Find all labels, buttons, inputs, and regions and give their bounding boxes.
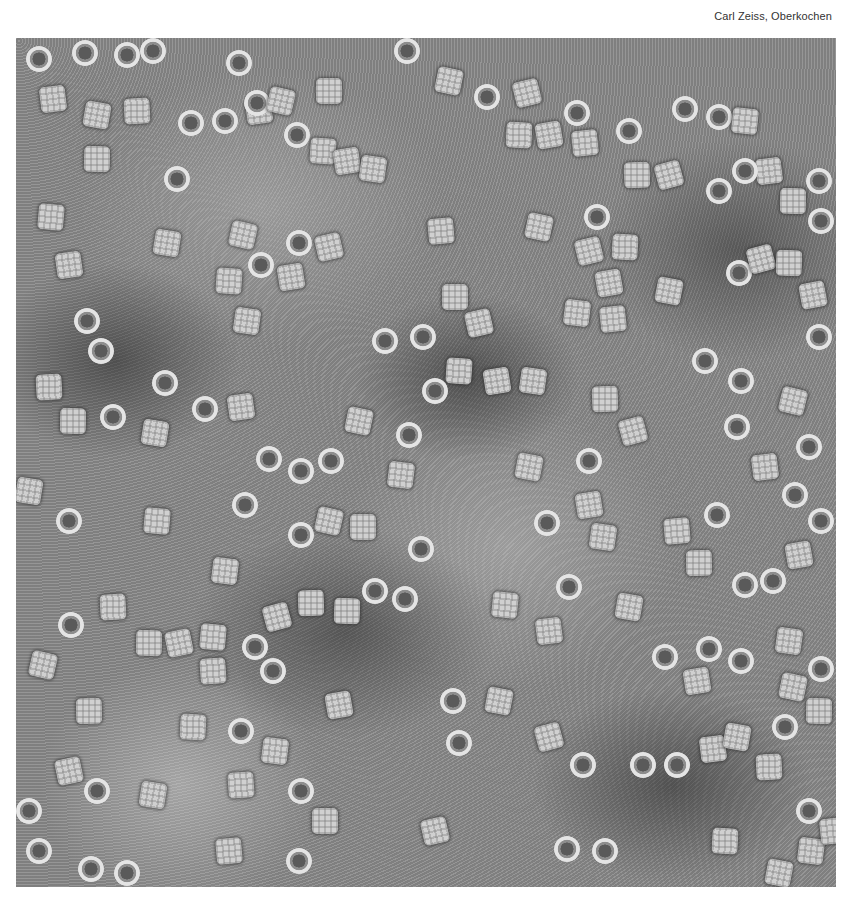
ring-particle (396, 422, 422, 448)
square-particle (563, 299, 592, 328)
square-particle (482, 366, 512, 396)
square-particle (261, 737, 290, 766)
square-particle (711, 827, 738, 854)
square-particle (533, 721, 565, 753)
ring-particle (178, 110, 204, 136)
ring-particle (474, 84, 500, 110)
square-particle (54, 250, 83, 279)
square-particle (316, 78, 342, 104)
ring-particle (288, 458, 314, 484)
square-particle (387, 461, 416, 490)
square-particle (179, 713, 206, 740)
ring-particle (808, 508, 834, 534)
ring-particle (408, 536, 434, 562)
square-particle (358, 154, 387, 183)
ring-particle (394, 38, 420, 64)
ring-particle (440, 688, 466, 714)
ring-particle (410, 324, 436, 350)
ring-particle (724, 414, 750, 440)
square-particle (227, 771, 255, 799)
square-particle (745, 243, 777, 275)
square-particle (686, 550, 712, 576)
ring-particle (796, 434, 822, 460)
ring-particle (164, 166, 190, 192)
square-particle (37, 203, 65, 231)
square-particle (755, 157, 784, 186)
square-particle (54, 756, 85, 787)
ring-particle (616, 118, 642, 144)
square-particle (594, 268, 624, 298)
square-particle (227, 219, 258, 250)
ring-particle (692, 348, 718, 374)
square-particle (751, 453, 780, 482)
square-particle (491, 591, 520, 620)
ring-particle (242, 634, 268, 660)
square-particle (798, 280, 828, 310)
square-particle (215, 837, 243, 865)
ring-particle (422, 378, 448, 404)
ring-particle (226, 50, 252, 76)
ring-particle (796, 798, 822, 824)
square-particle (463, 307, 494, 338)
ring-particle (286, 848, 312, 874)
ring-particle (534, 510, 560, 536)
square-particle (427, 217, 455, 245)
square-particle (614, 592, 644, 622)
ring-particle (228, 718, 254, 744)
square-particle (778, 672, 809, 703)
square-particle (764, 858, 794, 887)
square-particle (722, 722, 752, 752)
ring-particle (288, 778, 314, 804)
ring-particle (570, 752, 596, 778)
ring-particle (576, 448, 602, 474)
ring-particle (26, 838, 52, 864)
square-particle (445, 357, 473, 385)
ring-particle (58, 612, 84, 638)
square-particle (350, 514, 376, 540)
square-particle (39, 85, 68, 114)
square-particle (611, 233, 638, 260)
ring-particle (152, 370, 178, 396)
square-particle (140, 418, 170, 448)
ring-particle (672, 96, 698, 122)
square-particle (514, 452, 544, 482)
ring-particle (260, 658, 286, 684)
ring-particle (318, 448, 344, 474)
square-particle (60, 408, 86, 434)
ring-particle (78, 856, 104, 882)
square-particle (617, 415, 649, 447)
ring-particle (72, 40, 98, 66)
square-particle (624, 162, 651, 189)
square-particle (332, 146, 362, 176)
ring-particle (732, 572, 758, 598)
square-particle (265, 85, 296, 116)
square-particle (211, 557, 240, 586)
square-particle (276, 262, 306, 292)
square-particle (232, 306, 261, 335)
square-particle (653, 159, 685, 191)
ring-particle (212, 108, 238, 134)
square-particle (534, 120, 564, 150)
ring-particle (232, 492, 258, 518)
square-particle (324, 690, 354, 720)
ring-particle (26, 46, 52, 72)
ring-particle (392, 586, 418, 612)
square-particle (599, 305, 628, 334)
ring-particle (74, 308, 100, 334)
square-particle (806, 698, 832, 724)
square-particle (312, 808, 338, 834)
ring-particle (446, 730, 472, 756)
ring-particle (284, 122, 310, 148)
square-particle (199, 657, 227, 685)
square-particle (76, 698, 102, 724)
square-particle (524, 212, 555, 243)
square-particle (777, 385, 809, 417)
square-particle (27, 649, 58, 680)
ring-particle (808, 208, 834, 234)
square-particle (136, 630, 162, 656)
square-particle (226, 392, 255, 421)
square-particle (164, 628, 195, 659)
square-particle (261, 601, 293, 633)
square-particle (755, 753, 782, 780)
ring-particle (696, 636, 722, 662)
